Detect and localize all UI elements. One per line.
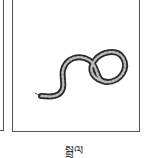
previous-card-edge[interactable]: [0, 0, 4, 131]
card-label: སྦྲུལ: [0, 136, 147, 158]
snake-illustration-icon: [33, 38, 133, 103]
flashcard-snake[interactable]: [12, 0, 140, 132]
